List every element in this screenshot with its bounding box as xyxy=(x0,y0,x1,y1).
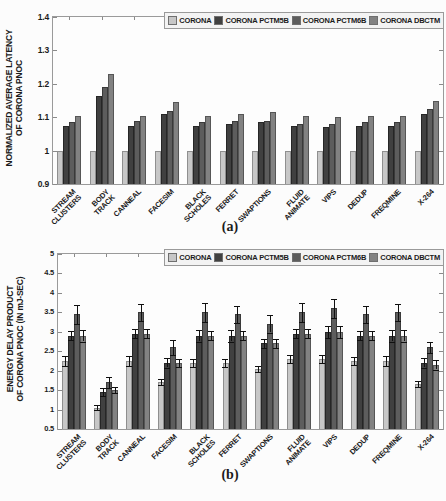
figure-page: NORMALIZED AVERAGE LATENCY OF CORONA PNO… xyxy=(0,0,446,501)
y-tick-mark xyxy=(53,84,57,85)
y-tick-label: 5 xyxy=(20,249,54,258)
x-category-label-text: CANNEAL xyxy=(112,188,143,219)
x-tick-mark-top xyxy=(106,254,107,257)
error-bar-cap-bottom xyxy=(106,388,112,389)
y-tick-label: 1.4 xyxy=(15,12,49,22)
y-tick-label: 2 xyxy=(20,366,54,375)
error-bar-cap-top xyxy=(202,303,208,304)
legend-swatch xyxy=(214,16,223,25)
error-bar-cap-bottom xyxy=(395,321,401,322)
y-tick-mark xyxy=(58,254,62,255)
y-tick-label: 3 xyxy=(20,327,54,336)
legend-item: CORONA PCTM5B xyxy=(214,253,288,262)
y-tick-mark-right xyxy=(439,117,443,118)
legend-swatch xyxy=(369,253,378,262)
error-bar-line xyxy=(302,303,303,322)
error-bar-line xyxy=(77,305,78,324)
error-bar-line xyxy=(225,359,226,367)
y-tick-mark-right xyxy=(439,429,443,430)
error-bar-line xyxy=(211,331,212,340)
x-category-label-text: VIPS xyxy=(322,433,339,450)
error-bar-line xyxy=(328,326,329,338)
x-category-label-text: CANNEAL xyxy=(116,433,147,464)
bar xyxy=(80,336,86,429)
legend: CORONACORONA PCTM5BCORONA PCTM6BCORONA D… xyxy=(164,249,444,266)
error-bar-line xyxy=(372,331,373,340)
error-bar-cap-bottom xyxy=(208,340,214,341)
error-bar-line xyxy=(141,304,142,321)
legend-label: CORONA xyxy=(179,16,211,25)
x-tick-mark-top xyxy=(102,17,103,20)
error-bar-cap-top xyxy=(433,360,439,361)
error-bar-cap-bottom xyxy=(267,333,273,334)
bar xyxy=(140,116,146,185)
bar xyxy=(112,390,118,429)
legend-swatch xyxy=(214,253,223,262)
x-tick-mark-top xyxy=(74,254,75,257)
error-bar-line xyxy=(179,359,180,367)
error-bar-line xyxy=(322,355,323,363)
error-bar-cap-bottom xyxy=(240,340,246,341)
error-bar-cap-bottom xyxy=(202,322,208,323)
legend-item: CORONA PCTM5B xyxy=(214,16,288,25)
y-tick-mark-right xyxy=(439,410,443,411)
legend-item: CORONA DBCTM xyxy=(369,253,440,262)
error-bar-line xyxy=(386,356,387,365)
x-category-label-text: X-264 xyxy=(416,188,435,207)
x-category-label-text: FERRET xyxy=(217,433,243,459)
error-bar-cap-top xyxy=(369,331,375,332)
error-bar-line xyxy=(71,331,72,340)
y-tick-mark xyxy=(58,429,62,430)
y-tick-label: 1 xyxy=(15,146,49,156)
x-category-label-line: FERRET xyxy=(217,433,243,459)
legend-item: CORONA xyxy=(168,253,211,262)
subfigure-caption-a: (a) xyxy=(20,219,440,235)
y-tick-mark xyxy=(53,17,57,18)
bar xyxy=(337,332,343,429)
y-tick-mark xyxy=(53,117,57,118)
x-tick-mark-top xyxy=(134,17,135,20)
error-bar-cap-top xyxy=(331,299,337,300)
error-bar-cap-bottom xyxy=(331,318,337,319)
x-category-label-line: VIPS xyxy=(321,188,338,205)
x-category-label-line: FREQMINE xyxy=(370,188,403,221)
y-axis-label-line: NORMALIZED AVERAGE LATENCY xyxy=(4,8,14,188)
legend-item: CORONA DBCTM xyxy=(369,16,440,25)
y-axis-label-line: OF CORONA PNOC xyxy=(14,8,24,188)
error-bar-cap-top xyxy=(363,306,369,307)
x-category-label-text: STREAMCLUSTERS xyxy=(50,433,89,472)
error-bar-line xyxy=(129,356,130,365)
error-bar-line xyxy=(199,330,200,342)
y-tick-label: 4 xyxy=(20,288,54,297)
legend-swatch xyxy=(369,16,378,25)
error-bar-cap-bottom xyxy=(176,367,182,368)
error-bar-line xyxy=(424,358,425,367)
bar xyxy=(270,112,276,184)
chart-a-y-axis-label: NORMALIZED AVERAGE LATENCY OF CORONA PNO… xyxy=(4,8,24,188)
x-category-label-line: FREQMINE xyxy=(371,433,404,466)
x-tick-mark-top xyxy=(138,254,139,257)
legend-swatch xyxy=(168,253,177,262)
y-tick-mark-right xyxy=(439,273,443,274)
bar xyxy=(238,114,244,184)
error-bar-cap-bottom xyxy=(305,338,311,339)
error-bar-line xyxy=(290,355,291,363)
error-bar-line xyxy=(276,339,277,348)
y-tick-label: 4.5 xyxy=(20,268,54,277)
bar xyxy=(144,334,150,429)
x-category-label-text: FLUIDANIMATE xyxy=(279,433,313,467)
x-category-label-text: DEDUP xyxy=(347,188,371,212)
y-tick-mark-right xyxy=(439,293,443,294)
y-tick-mark-right xyxy=(439,84,443,85)
error-bar-cap-bottom xyxy=(337,338,343,339)
error-bar-cap-top xyxy=(138,304,144,305)
error-bar-cap-bottom xyxy=(74,324,80,325)
x-category-label-text: FREQMINE xyxy=(370,188,403,221)
y-tick-label: 1.3 xyxy=(15,45,49,55)
error-bar-line xyxy=(360,331,361,340)
y-tick-label: 1.2 xyxy=(15,79,49,89)
legend: CORONACORONA PCTM5BCORONA PCTM6BCORONA D… xyxy=(164,12,444,29)
error-bar-line xyxy=(83,330,84,342)
legend-item: CORONA PCTM6B xyxy=(292,16,366,25)
bar xyxy=(173,102,179,184)
